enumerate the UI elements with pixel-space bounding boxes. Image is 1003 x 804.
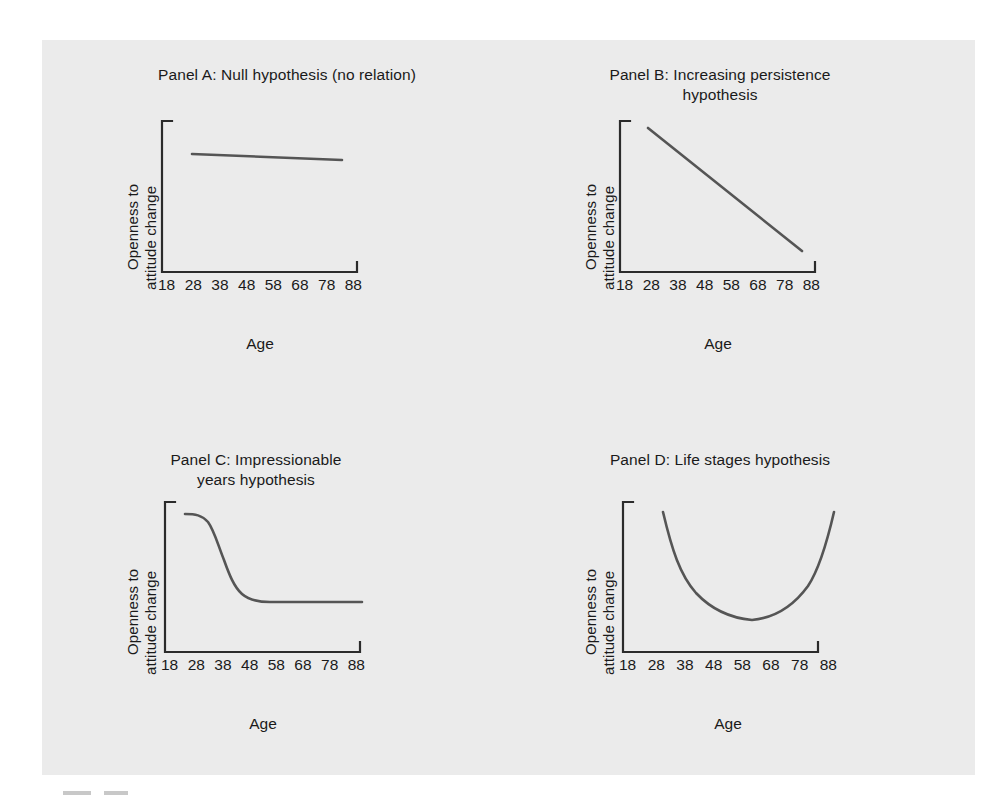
panel-d: Panel D: Life stages hypothesis Openness… (520, 450, 970, 770)
panel-a-tick-18: 18 (158, 276, 175, 294)
panel-a: Panel A: Null hypothesis (no relation) O… (62, 65, 512, 385)
panel-a-tick-88: 88 (345, 276, 362, 294)
panel-d-data-line (663, 512, 834, 620)
panel-b-axes (620, 121, 815, 272)
panel-c-x-tick-labels: 18 28 38 48 58 68 78 88 (161, 656, 365, 674)
panel-c-tick-78: 78 (321, 656, 338, 674)
panel-c-data-line (185, 514, 362, 602)
panel-d-x-tick-labels: 18 28 38 48 58 68 78 88 (619, 656, 837, 674)
scan-artifact-right (104, 791, 128, 795)
panel-c: Panel C: Impressionable years hypothesis… (62, 450, 512, 770)
panel-b-x-axis-label: Age (620, 335, 816, 353)
figure-panel-container: Panel A: Null hypothesis (no relation) O… (42, 40, 975, 775)
panel-d-axes (623, 502, 818, 652)
panel-a-x-axis-label-text: Age (246, 335, 274, 352)
panel-a-tick-78: 78 (318, 276, 335, 294)
panel-c-tick-68: 68 (294, 656, 311, 674)
panel-a-tick-68: 68 (291, 276, 308, 294)
panel-d-tick-38: 38 (676, 656, 693, 674)
panel-a-data-line (192, 154, 342, 160)
scan-artifact-left (63, 791, 91, 795)
panel-b-tick-88: 88 (803, 276, 820, 294)
panel-d-x-axis-label: Age (623, 715, 833, 733)
panel-a-tick-58: 58 (265, 276, 282, 294)
panel-b-tick-58: 58 (723, 276, 740, 294)
panel-d-tick-78: 78 (791, 656, 808, 674)
panel-c-x-axis-label-text: Age (249, 715, 277, 732)
panel-b-x-tick-labels: 18 28 38 48 58 68 78 88 (616, 276, 820, 294)
panel-c-axes (165, 502, 360, 652)
panel-b: Panel B: Increasing persistence hypothes… (520, 65, 970, 385)
panel-d-x-axis-label-text: Age (714, 715, 742, 732)
panel-b-tick-48: 48 (696, 276, 713, 294)
panel-a-x-axis-label: Age (162, 335, 358, 353)
panel-c-x-axis-label: Age (165, 715, 361, 733)
panel-a-axes (162, 121, 357, 272)
panel-c-tick-28: 28 (188, 656, 205, 674)
panel-b-tick-68: 68 (749, 276, 766, 294)
panel-b-tick-18: 18 (616, 276, 633, 294)
panel-d-tick-58: 58 (734, 656, 751, 674)
panel-c-tick-48: 48 (241, 656, 258, 674)
panel-b-tick-78: 78 (776, 276, 793, 294)
panel-d-tick-28: 28 (648, 656, 665, 674)
panel-d-tick-48: 48 (705, 656, 722, 674)
panel-d-tick-88: 88 (820, 656, 837, 674)
panel-a-tick-48: 48 (238, 276, 255, 294)
panel-d-tick-68: 68 (762, 656, 779, 674)
panel-c-tick-88: 88 (348, 656, 365, 674)
panel-a-tick-38: 38 (211, 276, 228, 294)
panel-b-tick-28: 28 (643, 276, 660, 294)
panel-b-data-line (648, 128, 802, 251)
panel-b-tick-38: 38 (669, 276, 686, 294)
panel-c-tick-58: 58 (268, 656, 285, 674)
panel-c-tick-38: 38 (214, 656, 231, 674)
panel-b-x-axis-label-text: Age (704, 335, 732, 352)
panel-d-tick-18: 18 (619, 656, 636, 674)
panel-a-x-tick-labels: 18 28 38 48 58 68 78 88 (158, 276, 362, 294)
panel-a-tick-28: 28 (185, 276, 202, 294)
panel-c-tick-18: 18 (161, 656, 178, 674)
